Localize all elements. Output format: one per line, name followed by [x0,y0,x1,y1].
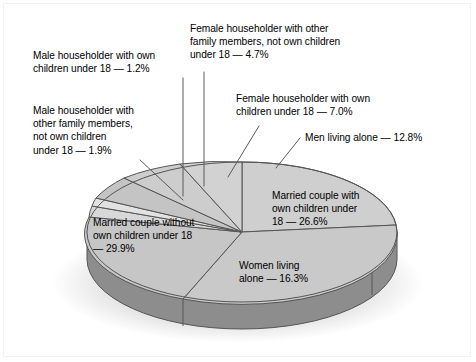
label-women-living-alone: Women living alone — 16.3% [239,259,339,285]
leader-line-men-living-alone [276,138,300,168]
label-men-living-alone: Men living alone — 12.8% [305,131,475,144]
label-married-couple-without-own-children: Married couple without own children unde… [93,216,243,256]
pie-chart-figure: Male householder with own children under… [0,0,476,362]
chart-stage: Male householder with own children under… [0,0,476,362]
label-female-householder-own-children: Female householder with own children und… [236,92,421,118]
label-married-couple-with-own-children: Married couple with own children under 1… [272,189,392,229]
label-male-householder-own-children: Male householder with own children under… [33,49,208,75]
label-male-householder-other-members: Male householder with other family membe… [33,104,173,157]
label-female-householder-other-members: Female householder with other family mem… [190,22,385,62]
